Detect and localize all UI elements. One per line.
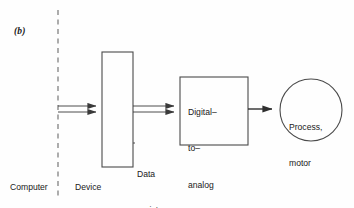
dac-label-line-1: Digital– <box>188 106 224 118</box>
zone-label-device: Device <box>75 182 101 192</box>
dac-label-line-3: analog <box>188 179 224 191</box>
data-register-caption: Data register <box>137 144 166 208</box>
data-register-caption-line-2: register <box>137 204 166 208</box>
figure-canvas: (b) Digital– to– analog convertor Proces… <box>0 0 354 208</box>
panel-label: (b) <box>14 26 26 37</box>
connector-register-to-dac <box>133 106 174 112</box>
process-motor-label: Process, motor <box>289 97 322 194</box>
process-motor-label-line-1: Process, <box>289 121 322 133</box>
data-register-caption-line-1: Data <box>137 168 166 180</box>
zone-label-computer: Computer <box>10 182 48 192</box>
connector-computer-to-register <box>58 106 96 112</box>
dac-label: Digital– to– analog convertor <box>188 82 224 208</box>
process-motor-label-line-2: motor <box>289 157 322 169</box>
node-data-register <box>102 52 133 167</box>
dac-label-line-2: to– <box>188 142 224 154</box>
